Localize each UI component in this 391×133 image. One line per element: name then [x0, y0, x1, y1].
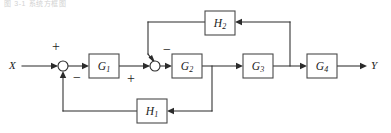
- sum2-minus-sign: −: [163, 42, 171, 57]
- sum1-plus-sign: +: [52, 39, 60, 54]
- block-g4: G4: [307, 54, 337, 78]
- block-diagram-canvas: G1 G2 G3 G4: [0, 0, 391, 133]
- block-h2-sub: 2: [222, 22, 226, 31]
- block-diagram-figure: 图 3-1 系统方框图: [0, 0, 391, 133]
- arrowhead-g1-input: [82, 63, 89, 69]
- sum1-minus-sign: −: [73, 70, 81, 85]
- arrowhead-output-y: [360, 63, 367, 69]
- block-g4-sub: 4: [324, 65, 328, 74]
- block-h1-sub: 1: [154, 110, 158, 119]
- input-signal-label: X: [8, 59, 17, 71]
- block-g1: G1: [89, 54, 119, 78]
- summing-junction-1: [58, 61, 68, 71]
- arrowhead-h2-input: [235, 19, 242, 25]
- block-h2: H2: [205, 11, 235, 35]
- block-g3-sub: 3: [259, 65, 264, 74]
- block-g3: G3: [243, 54, 273, 78]
- arrowhead-g4-input: [300, 63, 307, 69]
- output-signal-label: Y: [371, 59, 379, 71]
- arrowhead-sum1-input: [51, 63, 58, 69]
- figure-caption: 图 3-1 系统方框图: [4, 0, 67, 8]
- arrowhead-g3-input: [236, 63, 243, 69]
- blocks-layer: G1 G2 G3 G4: [89, 11, 337, 123]
- arrowhead-sum2-input: [143, 63, 150, 69]
- block-g2: G2: [172, 54, 202, 78]
- arrowhead-sum1-feedback: [60, 71, 66, 78]
- block-g1-sub: 1: [106, 65, 110, 74]
- block-h1: H1: [137, 99, 167, 123]
- arrowhead-g2-input: [165, 63, 172, 69]
- sum2-plus-sign: +: [127, 71, 135, 86]
- arrowhead-h1-input: [167, 108, 174, 114]
- block-g2-sub: 2: [189, 65, 193, 74]
- summing-junction-2: [150, 61, 160, 71]
